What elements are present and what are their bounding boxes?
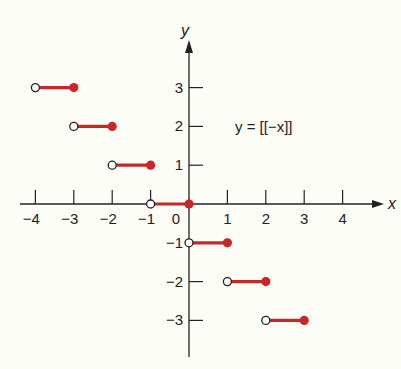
y-axis-arrow-icon xyxy=(185,40,193,53)
open-endpoint-icon xyxy=(185,239,193,247)
step-segment xyxy=(223,277,270,286)
x-tick-label: 4 xyxy=(338,210,346,227)
step-segment xyxy=(185,238,232,247)
closed-endpoint-icon xyxy=(184,199,193,208)
x-axis-arrow-icon xyxy=(372,200,384,208)
y-tick-label: −3 xyxy=(166,311,183,328)
step-segment xyxy=(262,316,309,325)
step-segment xyxy=(31,83,78,92)
closed-endpoint-icon xyxy=(108,122,117,131)
closed-endpoint-icon xyxy=(261,277,270,286)
x-tick-label: −4 xyxy=(23,210,40,227)
open-endpoint-icon xyxy=(223,278,231,286)
open-endpoint-icon xyxy=(70,122,78,130)
open-endpoint-icon xyxy=(31,84,39,92)
x-axis-label: x xyxy=(387,195,397,212)
closed-endpoint-icon xyxy=(146,161,155,170)
step-function-chart: −4−3−2−101234−3−2−1123 y = [[−x]] x y xyxy=(0,0,401,369)
y-tick-label: 3 xyxy=(175,79,183,96)
closed-endpoint-icon xyxy=(69,83,78,92)
open-endpoint-icon xyxy=(262,316,270,324)
x-tick-label: −2 xyxy=(100,210,117,227)
y-axis-label: y xyxy=(180,22,190,39)
x-tick-label: 2 xyxy=(262,210,270,227)
y-tick-label: −2 xyxy=(166,273,183,290)
x-tick-label: −1 xyxy=(138,210,155,227)
y-tick-label: 2 xyxy=(175,117,183,134)
step-segment xyxy=(147,199,194,208)
closed-endpoint-icon xyxy=(223,238,232,247)
x-tick-label: −3 xyxy=(61,210,78,227)
x-tick-label: 3 xyxy=(300,210,308,227)
x-tick-label: 0 xyxy=(172,210,180,227)
step-segment xyxy=(70,122,117,131)
open-endpoint-icon xyxy=(147,200,155,208)
closed-endpoint-icon xyxy=(300,316,309,325)
y-tick-label: 1 xyxy=(175,156,183,173)
open-endpoint-icon xyxy=(108,161,116,169)
step-segment xyxy=(108,161,155,170)
x-tick-label: 1 xyxy=(223,210,231,227)
y-tick-label: −1 xyxy=(166,234,183,251)
equation-label: y = [[−x]] xyxy=(235,118,293,135)
